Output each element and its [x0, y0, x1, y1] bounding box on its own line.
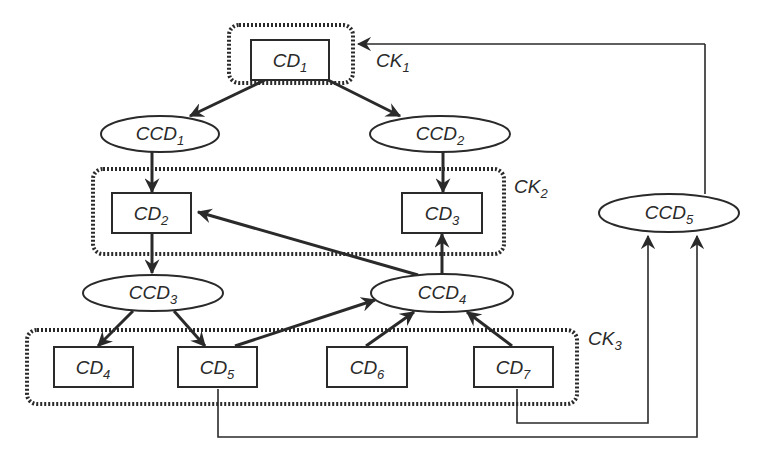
node-ccd1[interactable]: CCD1: [101, 116, 219, 152]
node-ccd4[interactable]: CCD4: [371, 274, 513, 312]
group-ck3-label: CK3: [588, 328, 622, 353]
group-ck2-label: CK2: [514, 176, 548, 201]
node-ccd2[interactable]: CCD2: [370, 116, 510, 152]
edge-ccd3-to-cd4: [98, 311, 133, 346]
edge-ccd4-to-cd2: [198, 212, 418, 275]
edge-cd1-to-ccd1: [190, 80, 265, 116]
node-cd2[interactable]: CD2: [112, 193, 191, 233]
node-cd7[interactable]: CD7: [474, 347, 553, 387]
node-cd5[interactable]: CD5: [178, 347, 257, 387]
edge-cd5-to-ccd4: [235, 300, 375, 346]
node-cd6[interactable]: CD6: [327, 347, 407, 387]
edge-cd7-to-ccd5: [517, 236, 648, 423]
dependency-diagram: CD1 CD2 CD3 CD4 CD5 CD6 CD7 CCD1 CCD2 CC…: [0, 0, 767, 467]
node-cd3[interactable]: CD3: [402, 193, 482, 233]
node-ccd5[interactable]: CCD5: [599, 194, 739, 232]
edge-cd5-to-ccd5: [218, 236, 697, 437]
node-cd1[interactable]: CD1: [251, 40, 329, 80]
node-cd4[interactable]: CD4: [54, 347, 133, 387]
group-ck1-label: CK1: [376, 50, 410, 75]
node-ccd3[interactable]: CCD3: [83, 275, 223, 311]
edge-cd1-to-ccd2: [328, 80, 400, 116]
